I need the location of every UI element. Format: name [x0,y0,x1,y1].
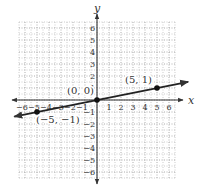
x-axis-label: x [188,94,195,107]
y-tick-label: −5 [83,156,95,165]
y-tick-label: 3 [90,60,95,69]
x-tick-label: 5 [154,103,159,112]
point-label: (5, 1) [125,74,152,85]
data-point [94,97,100,103]
x-tick-label: 2 [118,103,123,112]
x-tick-label: −6 [16,103,28,112]
point-label: (−5, −1) [36,114,80,125]
y-tick-label: 2 [90,72,95,81]
data-line [14,82,188,117]
y-tick-label: −3 [83,132,95,141]
y-tick-label: −4 [83,144,95,153]
y-tick-label: 4 [90,48,95,57]
x-tick-label: 4 [142,103,147,112]
x-tick-label: 1 [106,103,111,112]
y-axis-label: y [93,2,101,15]
y-tick-label: 5 [90,36,95,45]
data-point [154,85,160,91]
y-tick-label: −2 [83,120,95,129]
coordinate-plane: −6−5−4−3−2−1123456−6−5−4−3−2−1123456 (−5… [0,0,205,189]
y-tick-label: 6 [90,24,95,33]
series-line [14,82,188,117]
y-tick-label: −1 [83,108,95,117]
point-label: (0, 0) [67,85,94,96]
y-tick-label: −6 [83,168,95,177]
x-tick-label: 3 [130,103,135,112]
x-tick-label: 6 [166,103,171,112]
